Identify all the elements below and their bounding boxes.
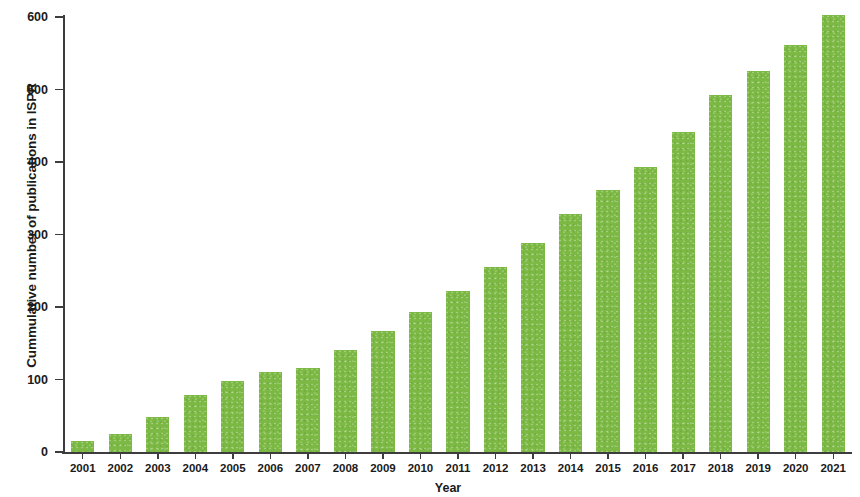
bar — [146, 417, 169, 452]
bar-chart: Cummulative number of publications in IS… — [0, 0, 860, 497]
x-tick — [157, 453, 158, 459]
x-tick — [607, 453, 608, 459]
bar — [296, 368, 319, 452]
bar — [409, 312, 432, 452]
x-tick-label: 2021 — [810, 462, 856, 474]
bar — [371, 331, 394, 452]
bars-group — [0, 0, 860, 497]
x-tick — [270, 453, 271, 459]
x-tick — [570, 453, 571, 459]
x-axis-title: Year — [0, 481, 860, 495]
bar — [822, 15, 845, 452]
bar — [521, 243, 544, 452]
bar — [784, 45, 807, 452]
x-tick — [307, 453, 308, 459]
x-tick — [420, 453, 421, 459]
bar — [634, 167, 657, 452]
bar — [71, 441, 94, 452]
bar — [484, 267, 507, 452]
bar — [672, 132, 695, 452]
bar — [596, 190, 619, 452]
x-tick — [232, 453, 233, 459]
bar — [221, 381, 244, 452]
bar — [747, 71, 770, 452]
x-tick — [757, 453, 758, 459]
x-tick — [382, 453, 383, 459]
x-tick — [495, 453, 496, 459]
x-tick — [195, 453, 196, 459]
bar — [259, 372, 282, 452]
x-tick — [457, 453, 458, 459]
bar — [559, 214, 582, 452]
bar — [184, 395, 207, 452]
bar — [109, 434, 132, 452]
x-tick — [682, 453, 683, 459]
x-tick — [82, 453, 83, 459]
x-tick — [120, 453, 121, 459]
bar — [334, 350, 357, 452]
x-tick — [795, 453, 796, 459]
x-tick — [645, 453, 646, 459]
x-tick — [532, 453, 533, 459]
x-tick — [345, 453, 346, 459]
x-axis-title-text: Year — [435, 481, 461, 495]
bar — [709, 95, 732, 452]
x-tick — [833, 453, 834, 459]
x-tick — [720, 453, 721, 459]
bar — [446, 291, 469, 452]
